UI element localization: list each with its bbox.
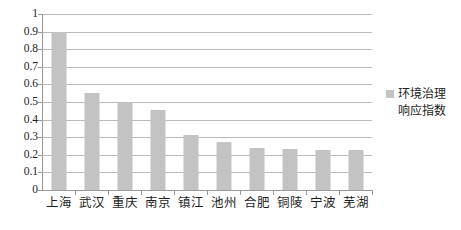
chart-legend: 环境治理 响应指数 bbox=[386, 86, 446, 121]
y-tick-label: 0.2 bbox=[4, 149, 38, 161]
bar-slot bbox=[108, 14, 141, 190]
x-tick-label: 武汉 bbox=[79, 197, 105, 211]
bar[interactable] bbox=[348, 150, 363, 190]
y-tick-label: 0.3 bbox=[4, 131, 38, 143]
y-tick-label: 0.5 bbox=[4, 96, 38, 108]
y-tick-label: 0.4 bbox=[4, 114, 38, 126]
y-tick-label: 0.1 bbox=[4, 167, 38, 179]
legend-label: 环境治理 响应指数 bbox=[398, 86, 446, 121]
bar[interactable] bbox=[84, 93, 99, 190]
x-tick-mark bbox=[240, 190, 241, 195]
x-tick-label: 合肥 bbox=[244, 197, 270, 211]
y-axis-ticks: 10.90.80.70.60.50.40.30.20.10 bbox=[0, 14, 38, 190]
bar-slot bbox=[174, 14, 207, 190]
bar-slot bbox=[75, 14, 108, 190]
plot-area bbox=[42, 14, 372, 190]
x-tick-label: 南京 bbox=[145, 197, 171, 211]
y-tick-label: 0.9 bbox=[4, 26, 38, 38]
x-tick-mark bbox=[141, 190, 142, 195]
bar[interactable] bbox=[117, 102, 132, 190]
x-tick-label: 芜湖 bbox=[343, 197, 369, 211]
x-tick-mark bbox=[306, 190, 307, 195]
x-tick-mark bbox=[372, 190, 373, 195]
legend-label-line-2: 响应指数 bbox=[398, 103, 446, 120]
bar[interactable] bbox=[315, 150, 330, 190]
x-tick-label: 铜陵 bbox=[277, 197, 303, 211]
x-tick-label: 上海 bbox=[46, 197, 72, 211]
x-tick-label: 宁波 bbox=[310, 197, 336, 211]
bar-chart: 10.90.80.70.60.50.40.30.20.10 上海武汉重庆南京镇江… bbox=[0, 0, 461, 230]
legend-swatch-icon bbox=[386, 90, 394, 98]
y-tick-label: 0.7 bbox=[4, 61, 38, 73]
x-axis-labels: 上海武汉重庆南京镇江池州合肥铜陵宁波芜湖 bbox=[42, 197, 373, 219]
bar[interactable] bbox=[183, 135, 198, 190]
bar[interactable] bbox=[282, 149, 297, 190]
bar[interactable] bbox=[51, 32, 66, 190]
bar-slot bbox=[207, 14, 240, 190]
bar[interactable] bbox=[249, 148, 264, 190]
legend-label-line-1: 环境治理 bbox=[398, 86, 446, 103]
bar-slot bbox=[240, 14, 273, 190]
y-tick-label: 0.8 bbox=[4, 43, 38, 55]
x-tick-label: 镇江 bbox=[178, 197, 204, 211]
y-tick-label: 0 bbox=[4, 184, 38, 196]
x-tick-mark bbox=[75, 190, 76, 195]
y-tick-label: 0.6 bbox=[4, 79, 38, 91]
y-tick-label: 1 bbox=[4, 8, 38, 20]
bar[interactable] bbox=[216, 142, 231, 190]
bar-slot bbox=[273, 14, 306, 190]
x-tick-mark bbox=[339, 190, 340, 195]
x-tick-label: 池州 bbox=[211, 197, 237, 211]
y-axis-line bbox=[42, 14, 43, 191]
bar-slot bbox=[42, 14, 75, 190]
x-tick-mark bbox=[207, 190, 208, 195]
x-tick-mark bbox=[108, 190, 109, 195]
bar-slot bbox=[339, 14, 372, 190]
bar-slot bbox=[141, 14, 174, 190]
bar[interactable] bbox=[150, 110, 165, 190]
x-tick-mark bbox=[273, 190, 274, 195]
bar-slot bbox=[306, 14, 339, 190]
x-tick-label: 重庆 bbox=[112, 197, 138, 211]
x-tick-mark bbox=[174, 190, 175, 195]
